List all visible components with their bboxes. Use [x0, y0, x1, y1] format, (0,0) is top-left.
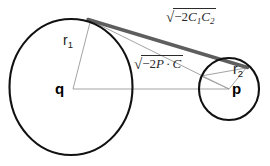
radius-label-r2-base: r: [233, 61, 238, 77]
tangent-length-coefficient: −2: [174, 9, 188, 24]
geometry-figure: √−2C1C2 √−2P·C r1 r2 q p: [0, 0, 270, 166]
center-distance-label: √−2P·C: [134, 55, 183, 72]
line-p-to-small-circle-edge: [201, 76, 229, 89]
center-label-q: q: [55, 81, 64, 96]
tangent-length-term2-sub: 2: [210, 16, 215, 26]
radius-label-r2: r2: [233, 62, 243, 78]
radius-label-r1-base: r: [63, 32, 68, 48]
center-label-p: p: [232, 81, 241, 96]
tangent-length-label: √−2C1C2: [166, 8, 216, 26]
radius-label-r2-sub: 2: [238, 68, 243, 79]
figure-canvas: [0, 0, 270, 166]
radius-label-r1-sub: 1: [68, 39, 73, 50]
center-distance-term1: P: [156, 56, 164, 71]
radius-line-r1: [73, 21, 91, 90]
center-distance-term2: C: [172, 56, 181, 71]
tangent-length-term2: C: [201, 9, 210, 24]
center-distance-coefficient: −2: [142, 56, 156, 71]
tangent-length-term1: C: [188, 9, 197, 24]
radius-label-r1: r1: [63, 33, 73, 49]
